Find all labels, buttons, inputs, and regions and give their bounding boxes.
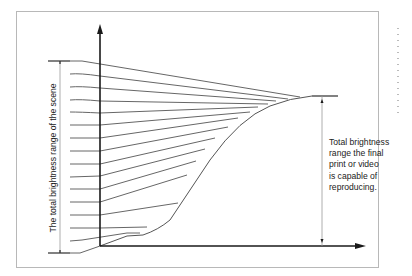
scene-line-12 (70, 175, 187, 202)
scene-line-15 (70, 233, 140, 241)
y-axis-arrow-icon (97, 24, 103, 34)
output-range-label-line-4: is capable of (329, 171, 405, 182)
scene-line-10 (70, 149, 205, 177)
scene-line-5 (70, 107, 258, 113)
output-range-label: Total brightness range the final print o… (329, 137, 405, 193)
characteristic-curve (100, 96, 312, 246)
output-range-label-line-5: reproducing. (329, 182, 405, 193)
scene-line-13 (70, 203, 178, 215)
diagram-frame (17, 12, 379, 268)
scene-line-16 (70, 246, 100, 253)
output-range-label-line-2: range the final (329, 148, 405, 159)
cropped-page-edge-text (396, 28, 402, 118)
scene-line-1 (70, 61, 300, 97)
scene-range-label: The total brightness range of the scene (46, 63, 60, 253)
scene-line-7 (70, 118, 238, 138)
scene-brightness-lines (70, 61, 300, 253)
scene-line-11 (70, 161, 196, 189)
x-axis-arrow-icon (355, 243, 366, 249)
scene-line-2 (70, 74, 288, 99)
output-range-label-line-3: print or video (329, 159, 405, 170)
scene-line-6 (70, 112, 250, 125)
output-range-label-line-1: Total brightness (329, 137, 405, 148)
scene-line-14 (70, 227, 147, 228)
